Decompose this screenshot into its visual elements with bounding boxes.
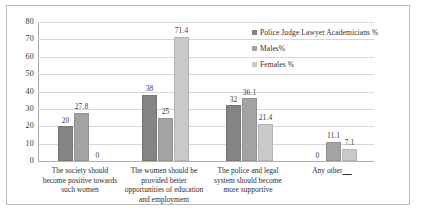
bar-group: 2027.80 — [58, 22, 106, 161]
bar[interactable] — [258, 124, 273, 161]
bar[interactable] — [242, 98, 257, 161]
category-label: The society shouldbecome positive toward… — [34, 166, 126, 195]
bar[interactable] — [226, 105, 241, 161]
legend-label-series-2: Females % — [260, 60, 294, 69]
bar[interactable] — [142, 95, 157, 161]
bar[interactable] — [342, 149, 357, 161]
legend-swatch-series-1 — [252, 46, 257, 51]
legend-label-series-1: Males% — [260, 44, 285, 53]
y-tick-40: 40 — [10, 87, 34, 96]
y-tick-60: 60 — [10, 52, 34, 61]
bar-value-label: 27.8 — [68, 102, 95, 111]
bar[interactable] — [158, 118, 173, 161]
bar[interactable] — [174, 37, 189, 161]
legend-item[interactable]: Females % — [252, 60, 417, 69]
legend-swatch-series-2 — [252, 62, 257, 67]
bar-value-label: 0 — [84, 151, 111, 160]
y-tick-0: 0 — [10, 156, 34, 165]
bar-group: 382571.4 — [142, 22, 190, 161]
gridline-0 — [38, 161, 374, 162]
legend-item[interactable]: Males% — [252, 44, 417, 53]
legend-label-series-0: Police Judge Lawyer Academicians % — [260, 28, 378, 37]
chart-legend: Police Judge Lawyer Academicians % Males… — [252, 28, 417, 76]
bar-value-label: 38 — [136, 84, 163, 93]
y-tick-30: 30 — [10, 104, 34, 113]
bar-value-label: 21.4 — [252, 113, 279, 122]
bar-value-label: 71.4 — [168, 26, 195, 35]
y-tick-20: 20 — [10, 121, 34, 130]
category-label: Any other — [291, 166, 373, 176]
y-tick-10: 10 — [10, 139, 34, 148]
legend-swatch-series-0 — [252, 30, 257, 35]
legend-item[interactable]: Police Judge Lawyer Academicians % — [252, 28, 417, 37]
bar[interactable] — [58, 126, 73, 161]
y-tick-50: 50 — [10, 69, 34, 78]
bar-value-label: 7.1 — [336, 138, 363, 147]
category-label: The women should beprovided betteropport… — [114, 166, 214, 204]
bar-value-label: 36.1 — [236, 88, 263, 97]
category-label: The police and legalsystem should become… — [202, 166, 294, 195]
chart-frame: 01020304050607080 2027.80382571.43236.12… — [6, 5, 410, 205]
y-tick-80: 80 — [10, 17, 34, 26]
y-tick-70: 70 — [10, 34, 34, 43]
